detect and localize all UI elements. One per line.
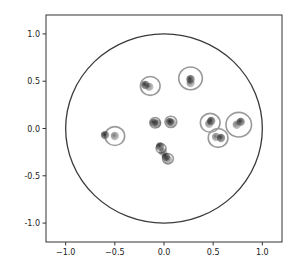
data-point xyxy=(186,79,194,87)
y-tick-label: 0.0 xyxy=(27,125,40,134)
x-axis: −1.0−0.50.00.51.0 xyxy=(56,242,269,257)
data-point xyxy=(205,120,213,128)
data-point xyxy=(164,156,172,164)
x-tick-label: 1.0 xyxy=(256,248,269,257)
y-axis: -1.0-0.50.00.51.0 xyxy=(24,30,46,228)
x-tick-label: −1.0 xyxy=(56,248,75,257)
scatter-chart: −1.0−0.50.00.51.0 -1.0-0.50.00.51.0 xyxy=(0,0,294,270)
y-tick-label: -0.5 xyxy=(24,172,40,181)
data-point xyxy=(168,119,176,127)
y-tick-label: 1.0 xyxy=(27,30,40,39)
data-point xyxy=(153,120,161,128)
plot-background xyxy=(46,15,282,242)
data-point xyxy=(111,132,119,140)
x-tick-label: −0.5 xyxy=(105,248,124,257)
y-tick-label: -1.0 xyxy=(24,219,40,228)
x-tick-label: 0.0 xyxy=(158,248,171,257)
data-point xyxy=(101,131,109,139)
data-point xyxy=(212,133,220,141)
data-point xyxy=(233,121,241,129)
x-tick-label: 0.5 xyxy=(207,248,220,257)
data-point xyxy=(145,83,153,91)
y-tick-label: 0.5 xyxy=(27,77,40,86)
